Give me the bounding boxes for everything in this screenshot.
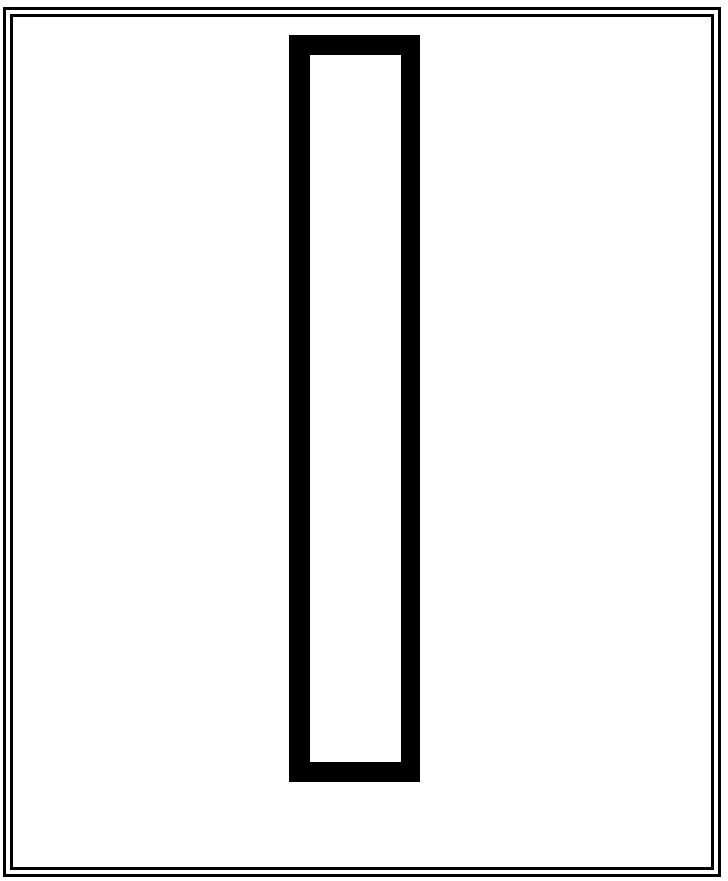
- hollow-rectangle-shape: [289, 35, 420, 782]
